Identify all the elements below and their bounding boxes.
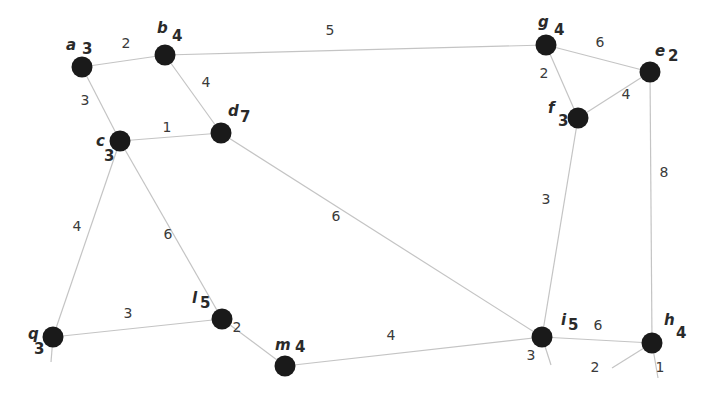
node-f: [568, 108, 589, 129]
node-h: [642, 333, 663, 354]
edge-weight-c-q: 4: [73, 218, 82, 234]
edge-weight-b-d: 4: [202, 74, 211, 90]
graph-diagram: 23451466624383246321 a3b4c3d7g4e2f3q3l5m…: [0, 0, 708, 397]
edge-weight-l-m: 2: [233, 319, 242, 335]
edge-q-l: [53, 319, 222, 337]
edge-b-d: [165, 55, 221, 133]
stub-weight-h: 2: [591, 359, 600, 375]
edge-c-q: [53, 141, 120, 337]
node-degree-f: 3: [558, 112, 568, 130]
node-degree-l: 5: [200, 294, 210, 312]
node-label-b: b: [157, 19, 168, 37]
edge-weight-b-g: 5: [326, 22, 335, 38]
node-i: [532, 327, 553, 348]
node-label-d: d: [228, 102, 239, 120]
edge-weight-a-c: 3: [81, 92, 90, 108]
stub-weight-h: 1: [656, 359, 665, 375]
stubs-layer: [51, 337, 658, 378]
node-q: [43, 327, 64, 348]
stub-weight-i: 3: [527, 347, 536, 363]
node-degree-e: 2: [668, 47, 678, 65]
node-label-l: l: [192, 289, 198, 307]
edge-weight-a-b: 2: [122, 35, 131, 51]
edge-e-h: [650, 72, 652, 343]
node-label-m: m: [275, 336, 291, 354]
node-degree-d: 7: [240, 108, 250, 126]
node-label-g: g: [538, 13, 549, 31]
node-degree-c: 3: [104, 147, 114, 165]
node-b: [155, 45, 176, 66]
node-m: [275, 356, 296, 377]
edge-weight-i-h: 6: [594, 317, 603, 333]
node-degree-i: 5: [568, 316, 578, 334]
node-label-a: a: [66, 36, 76, 54]
edge-d-i: [221, 133, 542, 337]
edge-b-g: [165, 45, 546, 55]
node-label-e: e: [655, 42, 665, 60]
node-label-i: i: [561, 311, 567, 329]
edge-weight-e-h: 8: [660, 164, 669, 180]
edge-weight-f-e: 4: [622, 86, 631, 102]
edge-weight-g-f: 2: [540, 65, 549, 81]
edge-weight-q-l: 3: [124, 305, 133, 321]
node-label-f: f: [548, 99, 557, 117]
edge-weight-g-e: 6: [596, 34, 605, 50]
node-label-h: h: [664, 311, 675, 329]
node-d: [211, 123, 232, 144]
edge-weight-c-l: 6: [164, 226, 173, 242]
edge-weight-m-i: 4: [387, 327, 396, 343]
node-degree-b: 4: [172, 27, 182, 45]
edge-weight-c-d: 1: [163, 119, 172, 135]
node-a: [72, 57, 93, 78]
node-degree-h: 4: [676, 324, 686, 342]
edge-f-e: [578, 72, 650, 118]
edge-a-b: [82, 55, 165, 67]
edge-m-i: [285, 337, 542, 366]
edge-i-h: [542, 337, 652, 343]
node-degree-m: 4: [295, 338, 305, 356]
edge-weight-f-i: 3: [542, 191, 551, 207]
node-degree-g: 4: [554, 21, 564, 39]
edge-weights-layer: 23451466624383246321: [73, 22, 669, 375]
node-l: [212, 309, 233, 330]
edge-f-i: [542, 118, 578, 337]
node-degree-q: 3: [34, 340, 44, 358]
node-degree-a: 3: [82, 40, 92, 58]
node-e: [640, 62, 661, 83]
edge-weight-d-i: 6: [332, 208, 341, 224]
